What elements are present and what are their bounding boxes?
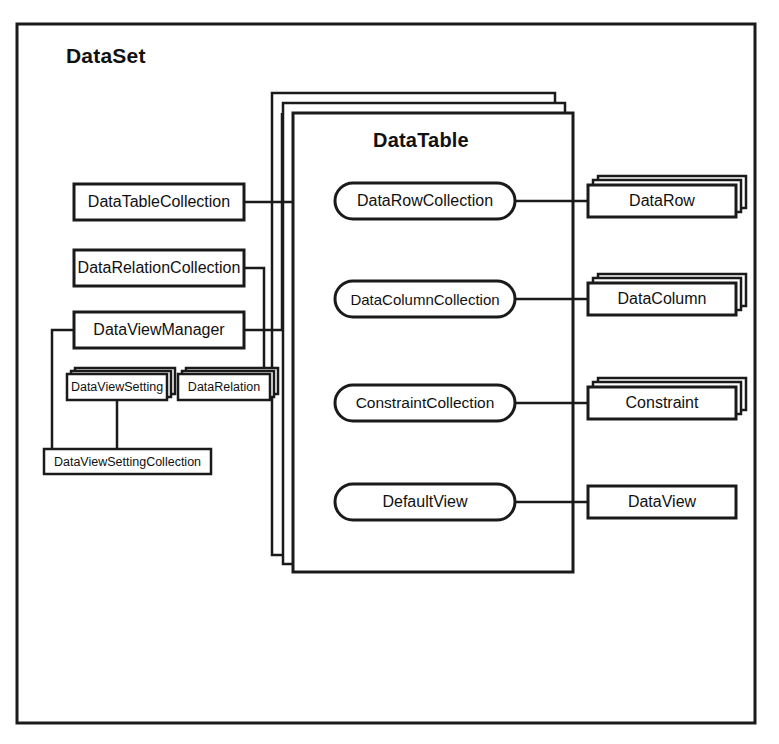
node-dataviewsetting[interactable] (67, 374, 167, 400)
node-datacolumn[interactable] (588, 283, 736, 315)
node-defaultview[interactable] (335, 484, 515, 520)
node-datarow[interactable] (588, 185, 736, 217)
node-dataview[interactable] (588, 486, 736, 518)
node-datacolumncollection[interactable] (335, 281, 515, 317)
node-datatablecollection[interactable] (74, 184, 244, 220)
node-datarowcollection[interactable] (335, 183, 515, 219)
node-constraintcollection[interactable] (335, 385, 515, 421)
container-title-datatable: DataTable (373, 129, 469, 152)
node-datarelationcollection[interactable] (74, 250, 244, 286)
container-title-dataset: DataSet (66, 44, 146, 68)
node-dataviewmanager[interactable] (74, 312, 244, 348)
diagram-svg (0, 0, 779, 744)
node-constraint[interactable] (588, 387, 736, 419)
node-dataviewsettingcollection[interactable] (44, 449, 211, 474)
node-datarelation[interactable] (178, 374, 270, 400)
diagram-canvas: DataSet DataTable DataTableCollection Da… (0, 0, 779, 744)
